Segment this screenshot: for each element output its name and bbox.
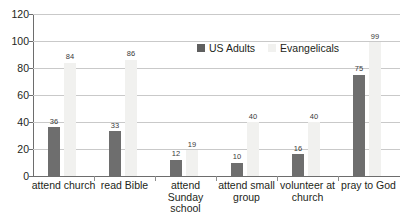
- bar-evangelicals[interactable]: [308, 122, 320, 176]
- bar-value-label: 40: [243, 113, 263, 121]
- bar-value-label: 10: [227, 153, 247, 161]
- plot-area: 36 84 33 86 12 19 10 40 16: [33, 14, 400, 176]
- bar-group: 10 40: [216, 14, 277, 176]
- legend-swatch-icon: [268, 44, 276, 52]
- bar-value-label: 40: [304, 113, 324, 121]
- y-tick-label: 60: [3, 90, 29, 101]
- bar-group: 75 99: [338, 14, 399, 176]
- x-category-label: attend church: [31, 180, 96, 192]
- x-category-label: volunteer at church: [275, 180, 340, 203]
- bar-evangelicals[interactable]: [186, 150, 198, 176]
- x-category-label: read Bible: [92, 180, 157, 192]
- x-category-label: attend small group: [214, 180, 279, 203]
- y-tick-label: 40: [3, 117, 29, 128]
- bar-value-label: 16: [288, 145, 308, 153]
- x-category-label: pray to God: [336, 180, 401, 192]
- x-category-label: attend Sunday school: [153, 180, 218, 213]
- y-tick-label: 20: [3, 144, 29, 155]
- bar-evangelicals[interactable]: [369, 42, 381, 176]
- legend-label: US Adults: [209, 42, 255, 54]
- x-axis-labels: attend church read Bible attend Sunday s…: [33, 180, 400, 213]
- bar-chart: 120 100 80 60 40 20 0 36 84: [0, 0, 408, 213]
- bar-us-adults[interactable]: [48, 127, 60, 176]
- bar-group: 33 86: [94, 14, 155, 176]
- legend-item-us-adults[interactable]: US Adults: [197, 42, 255, 54]
- legend-label: Evangelicals: [280, 42, 339, 54]
- y-tick-label: 0: [3, 171, 29, 182]
- y-tick-label: 100: [3, 36, 29, 47]
- bar-evangelicals[interactable]: [247, 122, 259, 176]
- bar-evangelicals[interactable]: [64, 63, 76, 176]
- bar-group: 36 84: [33, 14, 94, 176]
- y-axis-labels: 120 100 80 60 40 20 0: [0, 0, 29, 213]
- y-tick-label: 120: [3, 9, 29, 20]
- bar-value-label: 99: [365, 33, 385, 41]
- bar-value-label: 12: [166, 150, 186, 158]
- legend-item-evangelicals[interactable]: Evangelicals: [268, 42, 339, 54]
- bar-us-adults[interactable]: [292, 154, 304, 176]
- bar-group: 12 19: [155, 14, 216, 176]
- bar-value-label: 33: [105, 122, 125, 130]
- bar-value-label: 84: [60, 53, 80, 61]
- bar-value-label: 75: [349, 65, 369, 73]
- bar-us-adults[interactable]: [170, 160, 182, 176]
- y-tick-label: 80: [3, 63, 29, 74]
- legend-swatch-icon: [197, 44, 205, 52]
- legend: US Adults Evangelicals: [197, 42, 352, 54]
- bar-value-label: 36: [44, 118, 64, 126]
- bar-group: 16 40: [277, 14, 338, 176]
- bar-us-adults[interactable]: [231, 163, 243, 177]
- bar-us-adults[interactable]: [109, 131, 121, 176]
- bar-us-adults[interactable]: [353, 75, 365, 176]
- bar-value-label: 19: [182, 141, 202, 149]
- bar-value-label: 86: [121, 50, 141, 58]
- bar-evangelicals[interactable]: [125, 60, 137, 176]
